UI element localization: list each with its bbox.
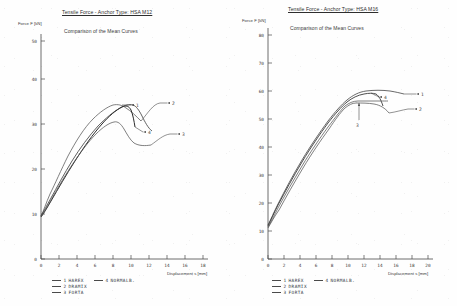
- chart-panel-hsa-m12: Tensile Force - Anchor Type: HSA M12 Com…: [0, 0, 228, 306]
- callout-4: 4: [148, 130, 151, 135]
- legend-label: NORMALB.: [110, 278, 135, 283]
- legend-line-swatch: [272, 292, 281, 293]
- callout-2: 2: [419, 107, 422, 112]
- svg-text:14: 14: [164, 263, 170, 268]
- svg-text:18: 18: [409, 263, 415, 268]
- svg-text:10: 10: [345, 263, 351, 268]
- svg-text:10: 10: [32, 212, 38, 217]
- svg-text:40: 40: [259, 145, 265, 150]
- svg-text:40: 40: [32, 77, 38, 82]
- legend-label: DRAMIX: [289, 284, 308, 289]
- curve-forta: [268, 101, 388, 227]
- legend-row: 3 FORTA: [272, 290, 355, 296]
- legend-entry-normalb: 4 NORMALB.: [94, 278, 135, 283]
- callout-3: 3: [182, 132, 185, 137]
- legend-hsa-m16: 1 HAREX 4 NORMALB. 2 DRAMIX 3 FORTA: [272, 277, 355, 296]
- svg-text:30: 30: [259, 173, 265, 178]
- x-tick-marks: [41, 255, 203, 259]
- legend-row: 3 FORTA: [52, 290, 135, 296]
- legend-row: 1 HAREX 4 NORMALB.: [272, 277, 355, 283]
- svg-text:10: 10: [259, 229, 265, 234]
- legend-label: FORTA: [69, 290, 84, 295]
- svg-text:14: 14: [377, 263, 383, 268]
- callout-3: 3: [356, 123, 359, 128]
- legend-label: HAREX: [289, 278, 304, 283]
- svg-text:4: 4: [299, 263, 302, 268]
- svg-text:16: 16: [393, 263, 399, 268]
- legend-label: HAREX: [69, 278, 84, 283]
- curve-harex: [268, 90, 404, 225]
- curve-forta: [41, 122, 151, 217]
- legend-line-swatch: [52, 286, 61, 287]
- callout-1: 1: [421, 92, 424, 97]
- x-tick-labels: 0 2 4 6 8 10 12 14 16 18: [40, 263, 206, 268]
- curve-harex: [41, 105, 152, 216]
- legend-entry-normalb: 4 NORMALB.: [314, 278, 355, 283]
- svg-text:12: 12: [146, 263, 152, 268]
- scanned-page: Tensile Force - Anchor Type: HSA M12 Com…: [0, 0, 457, 306]
- svg-text:8: 8: [331, 263, 334, 268]
- svg-text:70: 70: [259, 61, 265, 66]
- svg-text:20: 20: [425, 263, 431, 268]
- x-tick-labels: 0 2 4 6 8 10 12 14 16 18 20: [267, 263, 431, 268]
- svg-text:18: 18: [200, 263, 206, 268]
- svg-text:80: 80: [259, 33, 265, 38]
- svg-text:6: 6: [94, 263, 97, 268]
- svg-text:60: 60: [259, 89, 265, 94]
- chart-panel-hsa-m16: Tensile Force - Anchor Type: HSA M16 Com…: [228, 0, 456, 306]
- legend-line-swatch: [94, 280, 103, 281]
- curve-normalb: [268, 93, 383, 226]
- callout-labels: 1 2 3 4: [356, 92, 424, 128]
- x-tick-marks: [268, 255, 428, 259]
- legend-label: NORMALB.: [330, 278, 355, 283]
- svg-text:30: 30: [32, 122, 38, 127]
- callout-1: 1: [136, 103, 139, 108]
- svg-text:2: 2: [283, 263, 286, 268]
- svg-text:0: 0: [267, 263, 270, 268]
- svg-text:16: 16: [182, 263, 188, 268]
- legend-label: DRAMIX: [69, 284, 88, 289]
- svg-text:20: 20: [259, 201, 265, 206]
- svg-text:0: 0: [40, 263, 43, 268]
- legend-row: 1 HAREX 4 NORMALB.: [52, 277, 135, 283]
- svg-text:0: 0: [34, 257, 37, 262]
- curve-normalb: [41, 106, 135, 217]
- y-tick-marks: [41, 41, 45, 259]
- svg-text:12: 12: [361, 263, 367, 268]
- svg-text:8: 8: [112, 263, 115, 268]
- svg-text:0: 0: [261, 257, 264, 262]
- legend-line-swatch: [52, 280, 61, 281]
- curve-dramix: [41, 105, 141, 216]
- plot-area-hsa-m12: 0 10 20 30 40 50 0: [0, 0, 228, 306]
- svg-text:6: 6: [315, 263, 318, 268]
- y-tick-labels: 0 10 20 30 40 50 60 70 80: [259, 33, 265, 262]
- legend-line-swatch: [314, 280, 323, 281]
- y-tick-labels: 0 10 20 30 40 50: [32, 39, 38, 262]
- legend-hsa-m12: 1 HAREX 4 NORMALB. 2 DRAMIX 3 FORTA: [52, 277, 135, 296]
- svg-text:10: 10: [128, 263, 134, 268]
- legend-line-swatch: [52, 292, 61, 293]
- legend-line-swatch: [272, 280, 281, 281]
- legend-line-swatch: [272, 286, 281, 287]
- svg-text:4: 4: [76, 263, 79, 268]
- callout-2: 2: [172, 101, 175, 106]
- svg-text:20: 20: [32, 167, 38, 172]
- plot-area-hsa-m16: 0 10 20 30 40 50 60 70 80: [228, 0, 456, 306]
- svg-text:50: 50: [32, 39, 38, 44]
- svg-text:50: 50: [259, 117, 265, 122]
- legend-label: FORTA: [289, 290, 304, 295]
- svg-text:2: 2: [58, 263, 61, 268]
- callout-4: 4: [384, 95, 387, 100]
- callout-leaders: [359, 93, 416, 120]
- callout-arrowheads: [358, 93, 419, 110]
